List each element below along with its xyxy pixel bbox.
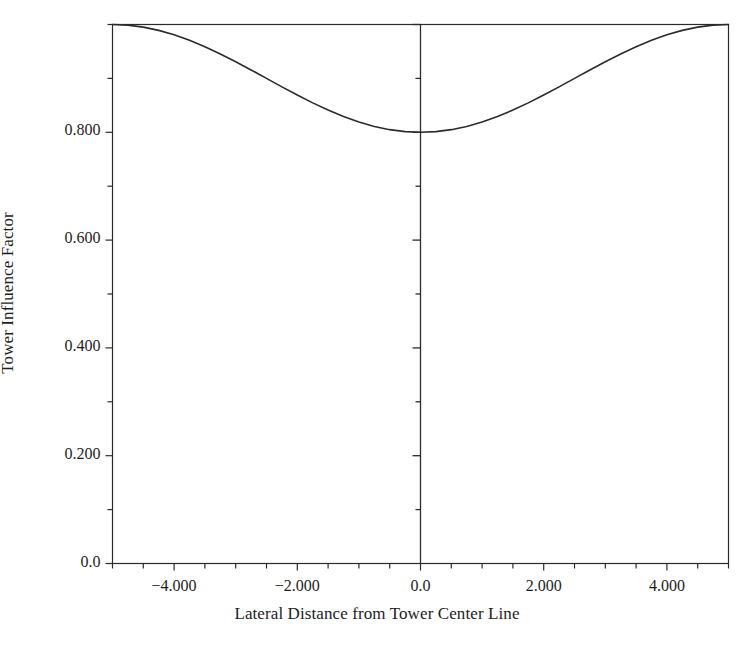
plot-canvas (0, 0, 754, 655)
chart-figure: 0.00.2000.4000.6000.800 −4.000−2.0000.02… (0, 0, 754, 655)
y-axis-title-text: Tower Influence Factor (0, 212, 18, 374)
x-axis-title: Lateral Distance from Tower Center Line (0, 604, 754, 624)
y-axis-title: Tower Influence Factor (0, 0, 16, 655)
x-axis-ticks (113, 564, 729, 571)
x-tick-label: −4.000 (129, 577, 219, 595)
y-tick-label: 0.800 (21, 121, 101, 139)
y-tick-label: 0.400 (21, 337, 101, 355)
x-tick-label: 0.0 (376, 577, 466, 595)
x-axis-title-text: Lateral Distance from Tower Center Line (234, 604, 519, 623)
x-tick-label: 2.000 (499, 577, 589, 595)
y-tick-label: 0.600 (21, 229, 101, 247)
y-tick-label: 0.0 (21, 553, 101, 571)
y-tick-label: 0.200 (21, 445, 101, 463)
x-tick-label: −2.000 (252, 577, 342, 595)
x-tick-label: 4.000 (622, 577, 712, 595)
tower-center-line (413, 25, 421, 564)
y-axis-ticks (106, 25, 113, 564)
